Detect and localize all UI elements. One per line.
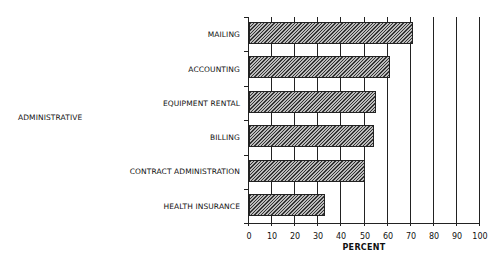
y-tick bbox=[244, 17, 249, 18]
gridline bbox=[433, 17, 434, 223]
bar-equipment-rental bbox=[249, 91, 376, 113]
x-tick bbox=[271, 220, 272, 226]
category-label: ACCOUNTING bbox=[188, 65, 240, 74]
y-tick bbox=[244, 223, 249, 224]
bar-health-insurance bbox=[249, 194, 325, 216]
x-tick-label: 50 bbox=[360, 232, 370, 241]
gridline bbox=[317, 17, 318, 223]
x-tick-label: 20 bbox=[290, 232, 300, 241]
y-tick bbox=[244, 86, 249, 87]
bar-billing bbox=[249, 125, 374, 147]
x-tick-label: 100 bbox=[472, 232, 487, 241]
x-tick-label: 90 bbox=[452, 232, 462, 241]
gridline bbox=[271, 17, 272, 223]
gridline bbox=[479, 17, 480, 223]
gridline bbox=[410, 17, 411, 223]
y-tick bbox=[244, 51, 249, 52]
gridline bbox=[340, 17, 341, 223]
x-tick-label: 80 bbox=[429, 232, 439, 241]
x-tick-label: 70 bbox=[406, 232, 416, 241]
gridline bbox=[364, 17, 365, 223]
x-tick-label: 30 bbox=[313, 232, 323, 241]
x-tick bbox=[294, 220, 295, 226]
x-tick-label: 0 bbox=[246, 232, 251, 241]
x-tick-label: 40 bbox=[336, 232, 346, 241]
category-label: MAILING bbox=[208, 30, 240, 39]
y-tick bbox=[244, 189, 249, 190]
group-label-administrative: ADMINISTRATIVE bbox=[18, 113, 82, 122]
x-tick bbox=[364, 220, 365, 226]
x-tick bbox=[317, 220, 318, 226]
x-tick bbox=[387, 220, 388, 226]
x-axis-title: PERCENT bbox=[342, 243, 385, 252]
category-label: BILLING bbox=[210, 133, 240, 142]
bar-contract-administration bbox=[249, 160, 365, 182]
gridline bbox=[294, 17, 295, 223]
x-tick bbox=[456, 220, 457, 226]
x-tick bbox=[410, 220, 411, 226]
bar-accounting bbox=[249, 56, 390, 78]
x-tick bbox=[479, 220, 480, 226]
x-tick bbox=[433, 220, 434, 226]
gridline bbox=[387, 17, 388, 223]
bar-mailing bbox=[249, 22, 413, 44]
x-tick bbox=[340, 220, 341, 226]
category-label: EQUIPMENT RENTAL bbox=[163, 99, 240, 108]
x-tick-label: 60 bbox=[383, 232, 393, 241]
y-tick bbox=[244, 155, 249, 156]
category-label: CONTRACT ADMINISTRATION bbox=[130, 167, 240, 176]
gridline bbox=[456, 17, 457, 223]
plot-area bbox=[248, 17, 479, 223]
x-tick-label: 10 bbox=[267, 232, 277, 241]
category-label: HEALTH INSURANCE bbox=[163, 202, 240, 211]
y-tick bbox=[244, 120, 249, 121]
